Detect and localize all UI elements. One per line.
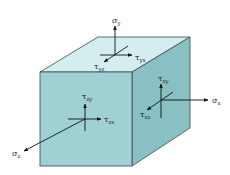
label-sigma-z: σz [12, 149, 20, 159]
stress-cube-diagram: σy τyx τyz τxy σx τxz τzy τzx σz [0, 0, 230, 175]
label-sigma-y: σy [112, 16, 121, 27]
label-sigma-x: σx [212, 96, 221, 106]
